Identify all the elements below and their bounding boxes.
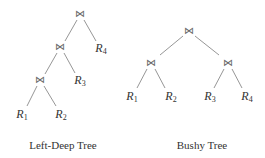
relation-r4: R4 [241,90,252,104]
relation-r1: R1 [16,108,27,122]
relation-r1: R1 [126,90,137,104]
join-icon: ⋈ [146,58,156,68]
join-icon: ⋈ [184,26,194,36]
left-deep-caption: Left-Deep Tree [29,139,97,151]
edge [45,53,57,74]
relation-r2: R2 [165,90,176,104]
edge [214,69,224,88]
edge [232,69,242,88]
edge [160,36,183,55]
bushy-caption: Bushy Tree [177,139,227,151]
edge [84,20,96,41]
join-icon: ⋈ [55,42,65,52]
edge [27,86,37,106]
edge [64,53,75,73]
relation-r2: R2 [55,108,66,122]
edge [195,36,219,55]
edge [65,20,77,41]
join-icon: ⋈ [35,75,45,85]
edge [137,69,147,88]
edge [155,69,165,88]
relation-r3: R3 [74,74,85,88]
edge [44,86,56,106]
relation-r3: R3 [204,90,215,104]
relation-r4: R4 [95,42,106,56]
join-icon: ⋈ [75,9,85,19]
join-icon: ⋈ [223,58,233,68]
